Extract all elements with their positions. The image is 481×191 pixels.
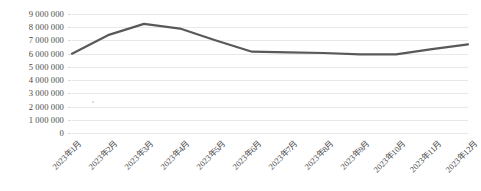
- line-chart: 01 000 0002 000 0003 000 0004 000 0005 0…: [0, 0, 481, 191]
- x-tick-label: 2023年6月: [229, 137, 264, 172]
- x-axis: 2023年1月2023年2月2023年3月2023年4月2023年5月2023年…: [0, 0, 481, 191]
- x-tick-label: 2023年10月: [370, 137, 408, 175]
- x-tick-label: 2023年3月: [121, 137, 156, 172]
- x-tick-label: 2023年12月: [442, 137, 480, 175]
- x-tick-label: 2023年8月: [301, 137, 336, 172]
- scan-artifact: [92, 101, 94, 103]
- x-tick-label: 2023年4月: [157, 137, 192, 172]
- x-tick-label: 2023年11月: [406, 137, 443, 174]
- x-tick-label: 2023年5月: [193, 137, 228, 172]
- x-tick-label: 2023年1月: [49, 137, 84, 172]
- x-tick-label: 2023年7月: [265, 137, 300, 172]
- x-tick-label: 2023年2月: [85, 137, 120, 172]
- x-tick-label: 2023年9月: [337, 137, 372, 172]
